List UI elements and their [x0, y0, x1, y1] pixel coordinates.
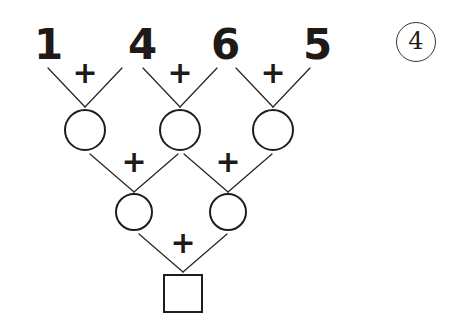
answer-circle-row1-3[interactable] — [252, 109, 294, 151]
top-number-4: 5 — [294, 24, 340, 66]
answer-circle-row1-2[interactable] — [159, 109, 201, 151]
problem-number-badge: 4 — [396, 22, 436, 62]
top-number-2: 4 — [119, 24, 165, 66]
top-number-3: 6 — [202, 24, 248, 66]
answer-circle-row2-2[interactable] — [209, 193, 247, 231]
plus-sign-row3-1: + — [168, 228, 198, 258]
addition-pyramid-worksheet: 1 4 6 5 4 + + + + + + — [0, 0, 460, 332]
plus-sign-row2-1: + — [119, 147, 149, 177]
answer-circle-row2-1[interactable] — [115, 193, 153, 231]
plus-sign-row1-3: + — [258, 58, 288, 88]
plus-sign-row1-2: + — [165, 58, 195, 88]
answer-square-total[interactable] — [163, 274, 203, 313]
plus-sign-row1-1: + — [70, 58, 100, 88]
plus-sign-row2-2: + — [213, 147, 243, 177]
answer-circle-row1-1[interactable] — [64, 109, 106, 151]
top-number-1: 1 — [25, 24, 71, 66]
